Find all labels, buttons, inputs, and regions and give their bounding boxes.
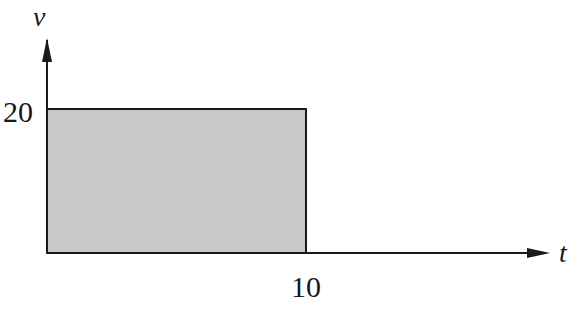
velocity-time-diagram: v 20 10 t bbox=[0, 0, 573, 321]
y-axis-arrow-icon bbox=[42, 38, 52, 62]
x-axis-arrow-icon bbox=[527, 248, 550, 258]
x-axis-label: t bbox=[559, 237, 568, 268]
x-tick-label: 10 bbox=[291, 270, 321, 303]
shaded-area bbox=[47, 109, 306, 253]
y-tick-label: 20 bbox=[3, 95, 33, 128]
y-axis-label: v bbox=[33, 1, 46, 32]
